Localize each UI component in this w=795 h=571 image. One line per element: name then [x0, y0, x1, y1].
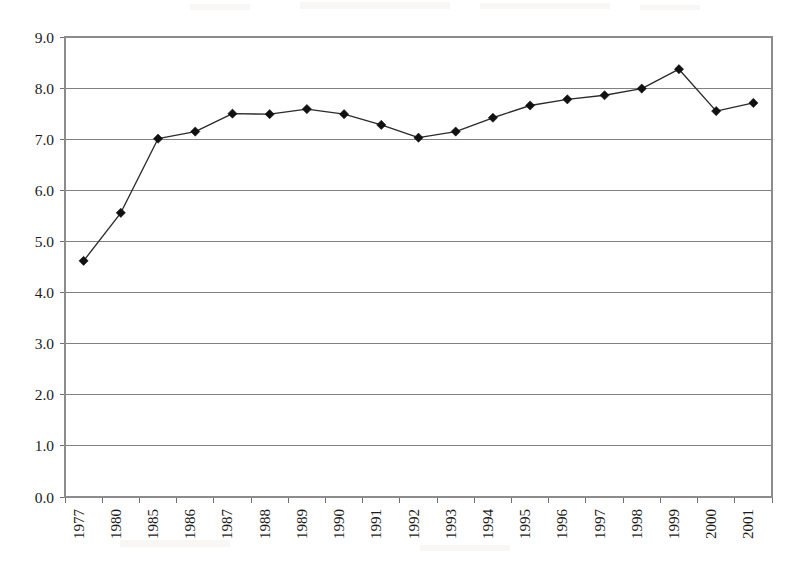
x-tick-label: 1992 — [406, 509, 422, 539]
line-chart: 9.08.07.06.05.04.03.02.01.00.0 197719801… — [0, 0, 795, 571]
y-tick-label: 7.0 — [35, 131, 55, 148]
x-tick-label: 1994 — [480, 508, 496, 539]
x-tick-label: 1998 — [629, 509, 645, 539]
x-tick-label: 1988 — [257, 509, 273, 539]
x-tick-label: 1999 — [666, 509, 682, 539]
y-tick-label: 2.0 — [35, 386, 55, 403]
y-tick-label: 8.0 — [35, 80, 55, 97]
y-tick-label: 0.0 — [35, 489, 55, 506]
x-tick-label: 1997 — [592, 509, 608, 540]
y-tick-label: 5.0 — [35, 233, 55, 250]
x-tick-label: 1991 — [368, 509, 384, 539]
y-tick-label: 9.0 — [35, 29, 55, 46]
chart-background — [0, 0, 795, 571]
x-tick-label: 1980 — [108, 509, 124, 539]
x-tick-label: 1977 — [71, 509, 87, 540]
x-tick-label: 1985 — [145, 509, 161, 539]
x-tick-label: 2001 — [740, 509, 756, 539]
y-tick-label: 4.0 — [35, 284, 55, 301]
x-tick-label: 1987 — [219, 509, 235, 540]
x-tick-label: 1996 — [554, 509, 570, 540]
x-tick-label: 1990 — [331, 509, 347, 539]
chart-container: 9.08.07.06.05.04.03.02.01.00.0 197719801… — [0, 0, 795, 571]
y-tick-label: 3.0 — [35, 335, 55, 352]
x-tick-label: 1993 — [443, 509, 459, 539]
x-tick-label: 2000 — [703, 509, 719, 539]
y-tick-label: 6.0 — [35, 182, 55, 199]
x-tick-label: 1995 — [517, 509, 533, 539]
y-tick-label: 1.0 — [35, 437, 55, 454]
x-tick-label: 1989 — [294, 509, 310, 539]
x-tick-label: 1986 — [182, 509, 198, 540]
